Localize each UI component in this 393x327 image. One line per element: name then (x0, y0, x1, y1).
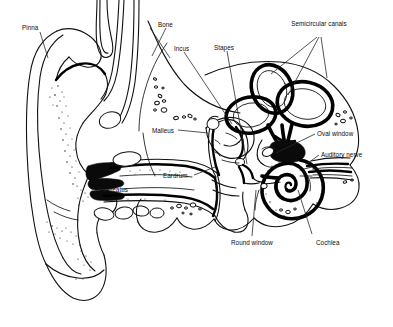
leader-semicircular-1 (271, 37, 317, 74)
label-incus: Incus (174, 45, 189, 53)
label-round-window: Round window (231, 239, 273, 247)
label-pinna: Pinna (22, 24, 38, 32)
ear-anatomy-diagram: Pinna Bone Incus Stapes Semicircular can… (0, 0, 393, 327)
label-eardrum: Eardrum (163, 172, 188, 180)
leader-malleus (178, 130, 208, 133)
leader-semicircular-2 (288, 37, 319, 95)
label-bone: Bone (158, 21, 173, 29)
leader-round-window (252, 190, 256, 236)
label-stapes: Stapes (214, 44, 234, 52)
label-auditory-nerve: Auditory nerve (321, 151, 362, 159)
cochlea-spiral (262, 159, 323, 218)
leader-auditory-nerve (308, 155, 319, 163)
eardrum-tympanic-membrane (213, 173, 220, 221)
label-oval-window: Oval window (317, 130, 353, 138)
ear-anatomy-illustration (0, 0, 393, 327)
label-cochlea: Cochlea (316, 239, 339, 247)
leader-incus (184, 52, 232, 124)
pinna-stipple-shading (46, 85, 91, 279)
leader-pinna (40, 32, 48, 58)
leader-semicircular-3 (321, 37, 327, 78)
label-meatus: Meatus (107, 186, 128, 194)
label-malleus: Malleus (152, 127, 174, 135)
label-semicircular-canals: Semicircular canals (290, 20, 348, 28)
